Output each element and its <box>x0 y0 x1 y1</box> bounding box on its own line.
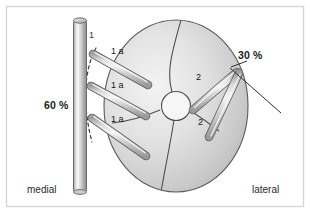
rod-bottom-cap <box>74 190 87 195</box>
fracture-line-dashed <box>86 48 96 142</box>
label-lateral-percent: 30 % <box>238 50 262 61</box>
label-medial-screw-1: 1 a <box>111 47 124 56</box>
label-medial-percent: 60 % <box>44 100 68 111</box>
label-medial-screw-2: 1 a <box>111 81 124 90</box>
label-medial-side: medial <box>27 185 56 195</box>
medial-rod <box>74 18 87 195</box>
central-canal <box>162 92 191 121</box>
label-lateral-screw-2: 2 <box>198 118 203 127</box>
label-lateral-screw-1: 2 <box>196 73 201 82</box>
label-medial-screw-3: 1 a <box>111 115 124 124</box>
label-rod-1: 1 <box>89 31 94 40</box>
label-lateral-side: lateral <box>252 185 279 195</box>
figure-root: 1 1 a 1 a 1 a 2 2 60 % 30 % medial later… <box>0 0 310 213</box>
rod-top-cap <box>74 18 87 23</box>
